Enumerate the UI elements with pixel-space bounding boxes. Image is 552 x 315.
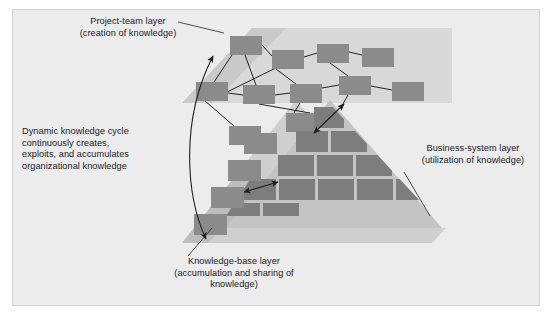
label-knowledge-base-layer: Knowledge-base layer (accumulation and s… [144, 256, 324, 291]
pyramid-brick [314, 107, 344, 128]
network-node [230, 36, 262, 55]
knowledge-step [228, 160, 261, 181]
label-project-team-layer: Project-team layer (creation of knowledg… [48, 16, 208, 39]
network-node [290, 84, 322, 103]
network-node [286, 113, 318, 132]
network-node [392, 82, 424, 101]
pyramid-plinth [208, 228, 446, 243]
network-node [339, 76, 371, 95]
label-business-system-layer: Business-system layer (utilization of kn… [398, 143, 548, 166]
pyramid-brick [356, 155, 392, 176]
knowledge-step [194, 214, 227, 235]
pyramid-brick [296, 131, 328, 152]
pyramid-brick [318, 179, 354, 200]
pyramid-brick [279, 179, 315, 200]
knowledge-step [244, 133, 277, 154]
label-dynamic-knowledge-cycle: Dynamic knowledge cycle continuously cre… [22, 126, 192, 172]
network-node [362, 48, 394, 67]
network-node [243, 85, 275, 104]
pyramid-brick [317, 155, 353, 176]
pyramid-brick [357, 179, 393, 200]
pyramid-brick [331, 131, 367, 152]
network-node [272, 50, 304, 69]
knowledge-step [211, 187, 244, 208]
figure-container: Project-team layer (creation of knowledg… [0, 0, 552, 315]
network-node [317, 44, 349, 63]
pyramid-brick [278, 155, 314, 176]
network-edge [205, 101, 234, 126]
